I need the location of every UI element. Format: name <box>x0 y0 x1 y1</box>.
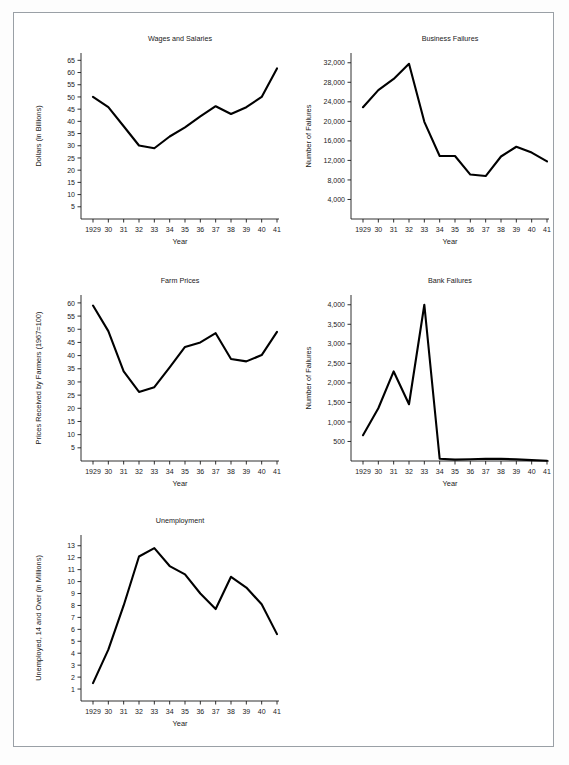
data-series-line <box>93 306 277 392</box>
y-tick-label: 35 <box>67 365 75 372</box>
x-tick-label: 31 <box>120 468 128 475</box>
chart-axes <box>351 295 549 461</box>
y-tick-label: 32,000 <box>324 59 346 66</box>
y-tick-label: 3,500 <box>327 321 345 328</box>
y-tick-label: 60 <box>67 300 75 307</box>
y-tick-label: 3 <box>71 662 75 669</box>
x-tick-label: 32 <box>405 468 413 475</box>
y-tick-label: 40 <box>67 118 75 125</box>
y-tick-label: 50 <box>67 94 75 101</box>
x-tick-label: 40 <box>258 226 266 233</box>
y-tick-label: 13 <box>67 542 75 549</box>
y-tick-label: 12,000 <box>324 157 346 164</box>
y-tick-label: 1,000 <box>327 419 345 426</box>
chart-title: Bank Failures <box>428 276 472 285</box>
figure-page: Wages and Salaries5101520253035404550556… <box>0 0 569 765</box>
figure-frame: Wages and Salaries5101520253035404550556… <box>13 12 554 747</box>
y-tick-label: 5 <box>71 638 75 645</box>
x-tick-label: 41 <box>273 226 281 233</box>
y-tick-label: 20 <box>67 405 75 412</box>
y-tick-label: 25 <box>67 392 75 399</box>
y-tick-label: 8,000 <box>327 177 345 184</box>
x-tick-label: 31 <box>120 226 128 233</box>
y-tick-label: 60 <box>67 69 75 76</box>
x-tick-label: 34 <box>166 468 174 475</box>
y-tick-label: 5 <box>71 203 75 210</box>
chart-unemployment: Unemployment1234567891011121319293031323… <box>29 513 287 741</box>
x-tick-label: 39 <box>242 468 250 475</box>
chart-farm-prices: Farm Prices51015202530354045505560192930… <box>29 273 287 501</box>
y-tick-label: 4,000 <box>327 196 345 203</box>
y-tick-label: 40 <box>67 352 75 359</box>
chart-axes <box>81 535 279 701</box>
x-tick-label: 33 <box>150 708 158 715</box>
x-tick-label: 37 <box>212 708 220 715</box>
y-tick-label: 12 <box>67 554 75 561</box>
x-axis-label: Year <box>173 479 188 488</box>
x-tick-label: 40 <box>528 226 536 233</box>
y-axis-label: Number of Failures <box>304 104 313 167</box>
x-tick-label: 40 <box>258 708 266 715</box>
y-tick-label: 20 <box>67 167 75 174</box>
x-tick-label: 41 <box>273 468 281 475</box>
x-tick-label: 36 <box>466 226 474 233</box>
y-tick-label: 8 <box>71 602 75 609</box>
y-tick-label: 1 <box>71 686 75 693</box>
x-tick-label: 41 <box>273 708 281 715</box>
y-tick-label: 65 <box>67 57 75 64</box>
x-tick-label: 34 <box>166 226 174 233</box>
y-tick-label: 28,000 <box>324 79 346 86</box>
chart-title: Wages and Salaries <box>148 34 212 43</box>
x-tick-label: 32 <box>405 226 413 233</box>
x-tick-label: 33 <box>420 468 428 475</box>
chart-title: Unemployment <box>156 516 204 525</box>
x-tick-label: 30 <box>104 226 112 233</box>
y-tick-label: 11 <box>68 566 75 573</box>
x-tick-label: 30 <box>374 226 382 233</box>
y-tick-label: 25 <box>67 155 75 162</box>
y-tick-label: 24,000 <box>324 98 346 105</box>
x-tick-label: 41 <box>543 226 551 233</box>
x-tick-label: 31 <box>390 226 398 233</box>
x-tick-label: 38 <box>497 226 505 233</box>
x-tick-label: 30 <box>104 708 112 715</box>
x-tick-label: 37 <box>482 226 490 233</box>
chart-wages-and-salaries: Wages and Salaries5101520253035404550556… <box>29 31 287 259</box>
y-tick-label: 55 <box>67 81 75 88</box>
chart-bank-failures: Bank Failures5001,0001,5002,0002,5003,00… <box>299 273 557 501</box>
chart-axes <box>351 53 549 219</box>
x-tick-label: 30 <box>374 468 382 475</box>
x-tick-label: 32 <box>135 226 143 233</box>
chart-business-failures: Business Failures4,0008,00012,00016,0002… <box>299 31 557 259</box>
x-axis-label: Year <box>443 479 458 488</box>
x-tick-label: 36 <box>466 468 474 475</box>
data-series-line <box>363 305 547 461</box>
x-tick-label: 31 <box>120 708 128 715</box>
y-tick-label: 10 <box>67 578 75 585</box>
x-tick-label: 40 <box>528 468 536 475</box>
data-series-line <box>93 68 277 148</box>
x-tick-label: 39 <box>512 226 520 233</box>
x-tick-label: 34 <box>436 226 444 233</box>
x-axis-label: Year <box>173 237 188 246</box>
y-tick-label: 1,500 <box>327 399 345 406</box>
x-tick-label: 1929 <box>355 468 371 475</box>
x-tick-label: 31 <box>390 468 398 475</box>
y-tick-label: 15 <box>67 179 75 186</box>
x-tick-label: 35 <box>181 708 189 715</box>
x-tick-label: 34 <box>436 468 444 475</box>
x-tick-label: 36 <box>196 226 204 233</box>
y-tick-label: 35 <box>67 130 75 137</box>
x-tick-label: 35 <box>451 226 459 233</box>
x-tick-label: 34 <box>166 708 174 715</box>
y-tick-label: 10 <box>67 431 75 438</box>
x-tick-label: 1929 <box>85 468 101 475</box>
x-tick-label: 38 <box>227 226 235 233</box>
x-tick-label: 1929 <box>85 708 101 715</box>
x-tick-label: 37 <box>212 468 220 475</box>
y-tick-label: 15 <box>67 418 75 425</box>
x-tick-label: 36 <box>196 468 204 475</box>
y-tick-label: 30 <box>67 142 75 149</box>
chart-title: Business Failures <box>422 34 479 43</box>
x-tick-label: 30 <box>104 468 112 475</box>
